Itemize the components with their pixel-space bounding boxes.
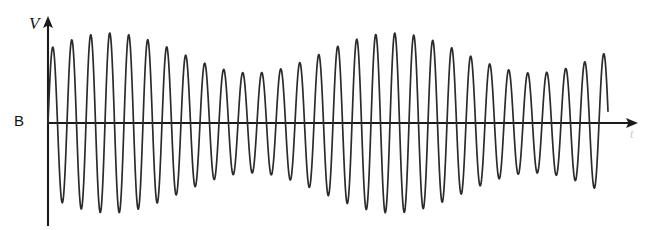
x-axis-label: t (630, 128, 633, 140)
axes-group (43, 16, 638, 226)
origin-label: B (14, 113, 24, 128)
waveform-figure: V B t (0, 0, 648, 230)
y-axis-label: V (29, 15, 39, 32)
waveform-canvas (0, 0, 648, 230)
